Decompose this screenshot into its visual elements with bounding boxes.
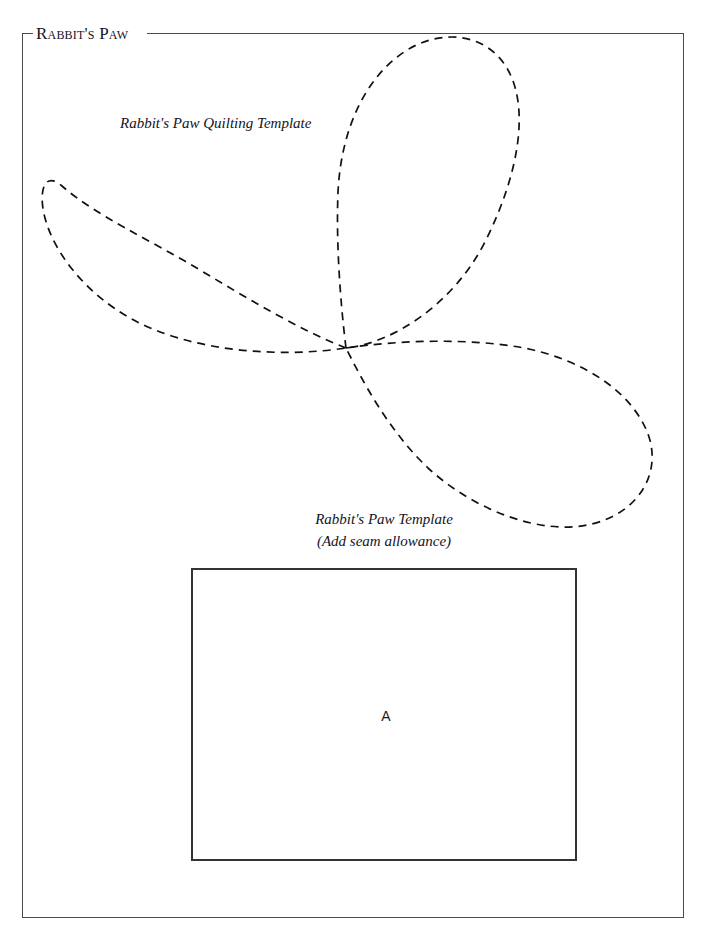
piece-label-a: A — [193, 708, 579, 724]
template-caption: Rabbit's Paw Template (Add seam allowanc… — [191, 508, 577, 552]
frame-right-edge — [683, 33, 684, 918]
template-caption-line-2: (Add seam allowance) — [191, 530, 577, 552]
frame-left-edge — [22, 33, 23, 918]
frame-top-left-stub — [22, 33, 33, 34]
frame-bottom-edge — [22, 917, 684, 918]
template-piece-a: A — [191, 568, 577, 861]
frame-top-edge — [147, 33, 684, 34]
motif-caption: Rabbit's Paw Quilting Template — [120, 112, 311, 134]
template-caption-line-1: Rabbit's Paw Template — [191, 508, 577, 530]
page-title: Rabbit's Paw — [36, 24, 128, 44]
